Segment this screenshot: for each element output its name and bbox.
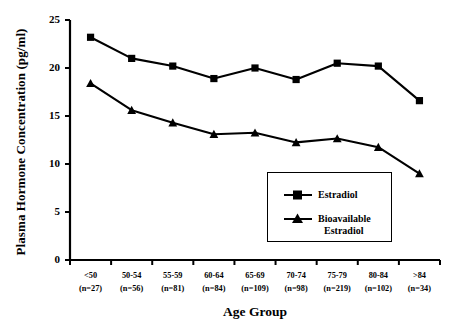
- data-point-triangle: [86, 79, 95, 87]
- legend-label-estradiol: Estradiol: [318, 189, 357, 200]
- y-tick-label: 15: [36, 109, 60, 121]
- data-point-square: [293, 76, 300, 83]
- data-point-square: [416, 97, 423, 104]
- y-tick-label: 10: [36, 157, 60, 169]
- y-tick-label: 25: [36, 13, 60, 25]
- x-tick-label-age: >84: [391, 270, 447, 283]
- legend-label-bioavailable-line2: Estradiol: [318, 225, 371, 237]
- data-point-square: [334, 60, 341, 67]
- data-point-square: [169, 62, 176, 69]
- legend-marker-square-icon: [293, 191, 302, 200]
- y-axis-title: Plasma Hormone Concentration (pg/ml): [13, 17, 29, 267]
- x-tick-label-group: >84(n=34): [391, 270, 447, 295]
- data-point-square: [128, 55, 135, 62]
- y-tick-label: 0: [36, 253, 60, 265]
- y-tick-label: 5: [36, 205, 60, 217]
- legend-item-estradiol: Estradiol: [318, 189, 357, 201]
- y-tick-label: 20: [36, 61, 60, 73]
- data-point-square: [375, 62, 382, 69]
- chart-figure: Plasma Hormone Concentration (pg/ml) Est…: [0, 0, 452, 329]
- x-tick-label-count: (n=34): [391, 283, 447, 296]
- x-axis-title: Age Group: [70, 304, 440, 320]
- data-point-square: [210, 75, 217, 82]
- data-point-square: [87, 34, 94, 41]
- chart-legend: Estradiol Bioavailable Estradiol: [267, 172, 392, 242]
- data-point-square: [251, 64, 258, 71]
- legend-item-bioavailable-estradiol: Bioavailable Estradiol: [318, 213, 371, 237]
- legend-label-bioavailable-line1: Bioavailable: [318, 213, 371, 224]
